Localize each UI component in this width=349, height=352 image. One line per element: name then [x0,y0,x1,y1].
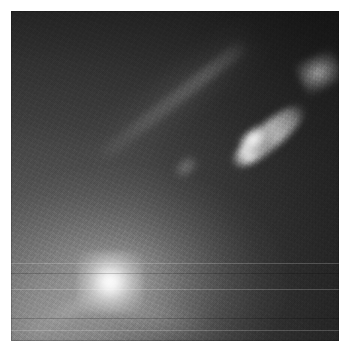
image-viewer-canvas [0,0,349,352]
image-frame-edge [11,11,339,341]
astronomical-image[interactable] [11,11,339,341]
